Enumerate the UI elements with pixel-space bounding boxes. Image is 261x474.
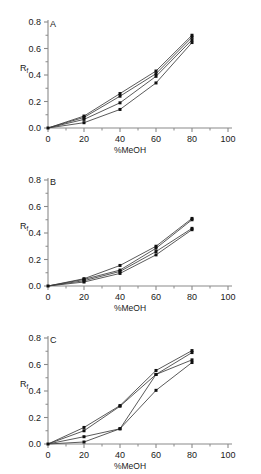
panel-a-chart: 0204060801000.00.20.40.60.8 xyxy=(0,0,261,158)
x-tick-label: 100 xyxy=(220,292,235,302)
y-tick-label: 0.2 xyxy=(28,97,41,107)
series-line xyxy=(48,230,192,286)
x-tick-label: 0 xyxy=(45,450,50,460)
data-point-marker xyxy=(191,361,194,364)
panel-b-y-axis-title: Rf xyxy=(20,222,28,233)
data-point-marker xyxy=(191,41,194,44)
data-point-marker xyxy=(191,38,194,41)
y-tick-label: 0.8 xyxy=(28,333,41,343)
y-tick-label: 0.0 xyxy=(28,123,41,133)
panel-b-plot-area: 0204060801000.00.20.40.60.8 xyxy=(0,158,261,316)
panel-a-y-axis-title-sub: f xyxy=(27,67,29,74)
x-tick-label: 20 xyxy=(79,134,89,144)
x-tick-label: 100 xyxy=(220,134,235,144)
data-point-marker xyxy=(119,92,122,95)
data-point-marker xyxy=(191,358,194,361)
x-tick-label: 80 xyxy=(187,134,197,144)
x-tick-label: 80 xyxy=(187,292,197,302)
x-tick-label: 20 xyxy=(79,292,89,302)
series-line xyxy=(48,35,192,128)
data-point-marker xyxy=(83,426,86,429)
series-line xyxy=(48,37,192,128)
panel-c-letter: C xyxy=(50,336,57,345)
data-point-marker xyxy=(155,373,158,376)
data-point-marker-origin xyxy=(47,285,50,288)
y-tick-label: 0.2 xyxy=(28,255,41,265)
data-point-marker-origin xyxy=(47,443,50,446)
data-point-marker xyxy=(191,218,194,221)
y-tick-label: 0.6 xyxy=(28,202,41,212)
data-point-marker xyxy=(155,250,158,253)
y-tick-label: 0.4 xyxy=(28,70,41,80)
series-line xyxy=(48,43,192,128)
x-tick-label: 20 xyxy=(79,450,89,460)
data-point-marker xyxy=(83,429,86,432)
data-point-marker xyxy=(155,75,158,78)
x-tick-label: 60 xyxy=(151,292,161,302)
data-point-marker xyxy=(155,253,158,256)
y-tick-label: 0.0 xyxy=(28,281,41,291)
y-tick-label: 0.6 xyxy=(28,44,41,54)
x-tick-label: 0 xyxy=(45,134,50,144)
data-point-marker xyxy=(155,72,158,75)
panel-b-x-axis-title: %MeOH xyxy=(100,304,160,313)
axes-group xyxy=(44,336,232,448)
data-point-marker xyxy=(83,118,86,121)
panel-a-y-axis-title: Rf xyxy=(20,64,28,75)
data-point-marker xyxy=(155,369,158,372)
panel-c-y-axis-title: Rf xyxy=(20,380,28,391)
data-point-marker xyxy=(83,441,86,444)
y-tick-label: 0.4 xyxy=(28,386,41,396)
data-point-marker xyxy=(83,121,86,124)
data-point-marker xyxy=(119,108,122,111)
panel-a-letter: A xyxy=(50,20,56,29)
panel-c-plot-area: 0204060801000.00.20.40.60.8 xyxy=(0,316,261,474)
panel-b-chart: 0204060801000.00.20.40.60.8 xyxy=(0,158,261,316)
data-point-marker xyxy=(119,405,122,408)
y-tick-label: 0.4 xyxy=(28,228,41,238)
panel-b: 0204060801000.00.20.40.60.8 B Rf %MeOH xyxy=(0,158,261,316)
tick-label-group: 0204060801000.00.20.40.60.8 xyxy=(28,175,235,302)
x-tick-label: 0 xyxy=(45,292,50,302)
panel-a: 0204060801000.00.20.40.60.8 A Rf %MeOH xyxy=(0,0,261,158)
y-tick-label: 0.2 xyxy=(28,413,41,423)
data-point-marker xyxy=(155,70,158,73)
panel-c-chart: 0204060801000.00.20.40.60.8 xyxy=(0,316,261,474)
y-tick-label: 0.8 xyxy=(28,175,41,185)
data-point-marker xyxy=(119,95,122,98)
data-point-marker-origin xyxy=(47,127,50,130)
data-point-marker xyxy=(191,228,194,231)
data-series-group xyxy=(47,349,194,445)
x-tick-label: 60 xyxy=(151,134,161,144)
data-series-group xyxy=(47,217,194,288)
data-point-marker xyxy=(191,351,194,354)
data-point-marker xyxy=(119,101,122,104)
y-tick-label: 0.0 xyxy=(28,439,41,449)
data-series-group xyxy=(47,34,194,130)
data-point-marker xyxy=(155,81,158,84)
x-tick-label: 40 xyxy=(115,450,125,460)
tick-label-group: 0204060801000.00.20.40.60.8 xyxy=(28,333,235,460)
x-tick-label: 100 xyxy=(220,450,235,460)
series-line xyxy=(48,218,192,286)
y-tick-label: 0.8 xyxy=(28,17,41,27)
axes-group xyxy=(44,178,232,290)
panel-b-letter: B xyxy=(50,178,56,187)
series-line xyxy=(48,220,192,286)
data-point-marker xyxy=(155,247,158,250)
data-point-marker xyxy=(155,389,158,392)
panel-b-y-axis-title-sub: f xyxy=(27,225,29,232)
series-line xyxy=(48,40,192,128)
x-tick-label: 40 xyxy=(115,134,125,144)
panel-c-x-axis-title: %MeOH xyxy=(100,462,160,471)
panel-a-x-axis-title: %MeOH xyxy=(100,146,160,155)
x-tick-label: 60 xyxy=(151,450,161,460)
series-line xyxy=(48,353,192,444)
data-point-marker xyxy=(119,264,122,267)
panel-a-plot-area: 0204060801000.00.20.40.60.8 xyxy=(0,0,261,158)
axes-group xyxy=(44,20,232,132)
data-point-marker xyxy=(119,427,122,430)
x-tick-label: 80 xyxy=(187,450,197,460)
series-line xyxy=(48,360,192,444)
panel-c-y-axis-title-sub: f xyxy=(27,383,29,390)
